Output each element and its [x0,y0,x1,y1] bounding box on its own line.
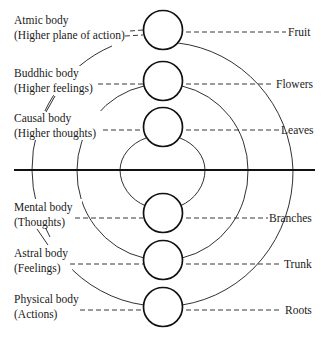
causal-body-circle [144,108,183,147]
bodies-tree-diagram: Atmic body (Higher plane of action) Budd… [0,0,325,342]
astral-body-description: (Feelings) [14,262,61,275]
tree-part-roots: Roots [285,304,312,316]
tree-part-flowers: Flowers [276,78,314,90]
atmic-body-circle [144,11,183,50]
mental-body-circle [144,194,183,233]
tree-part-trunk: Trunk [284,258,312,270]
astral-body-circle [144,241,183,280]
atmic-body-description: (Higher plane of action) [14,29,125,42]
physical-body-label: Physical body [14,293,79,306]
mental-body-label: Mental body [14,201,73,214]
buddhic-body-description: (Higher feelings) [14,82,93,95]
tree-part-leaves: Leaves [281,124,314,136]
mental-body-description: (Thoughts) [14,216,65,229]
arc-segment-mental-astral [37,229,48,245]
causal-body-description: (Higher thoughts) [14,127,96,140]
buddhic-body-circle [144,62,183,101]
tree-part-fruit: Fruit [288,26,311,38]
inner-arc-right [180,138,205,206]
tree-part-branches: Branches [269,212,312,224]
physical-body-description: (Actions) [14,308,58,321]
astral-body-label: Astral body [14,247,68,260]
buddhic-body-label: Buddhic body [14,67,79,80]
atmic-body-label: Atmic body [14,14,69,27]
middle-arc-right [182,86,248,258]
physical-body-circle [144,288,183,327]
inner-arc-left [120,138,146,206]
arc-segment-buddhic-causal [46,96,55,112]
causal-body-label: Causal body [14,112,71,125]
leader-left-atmic [125,30,143,36]
